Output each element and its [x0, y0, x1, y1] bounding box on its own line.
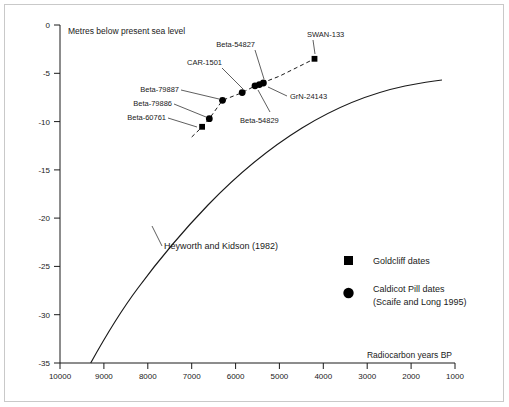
x-tick-8000: 8000	[139, 372, 157, 381]
x-tick-6000: 6000	[227, 372, 245, 381]
legend-marker-circle	[343, 288, 353, 298]
y-tick-15: -15	[38, 166, 50, 175]
x-tick-5000: 5000	[271, 372, 289, 381]
y-tick-30: -30	[38, 311, 50, 320]
x-tick-2000: 2000	[402, 372, 420, 381]
y-axis: 0 -5 -10 -15 -20 -25 -30 -35	[38, 21, 60, 368]
point-swan-133[interactable]	[312, 56, 318, 62]
legend-label-caldicot-source: (Scaife and Long 1995)	[373, 297, 467, 307]
point-beta-60761[interactable]	[199, 124, 205, 130]
leader-beta-60761	[168, 118, 197, 127]
leader-car-1501	[222, 68, 243, 89]
leader-heyworth	[152, 226, 162, 246]
y-tick-20: -20	[38, 214, 50, 223]
leader-swan-133	[313, 40, 315, 54]
label-beta-60761: Beta-60761	[127, 113, 166, 122]
legend-marker-square	[344, 256, 353, 265]
leader-beta-54827	[255, 50, 264, 79]
leader-beta-54829	[258, 90, 270, 112]
y-axis-title: Metres below present sea level	[68, 26, 185, 36]
leader-beta-79887	[181, 90, 219, 99]
y-tick-0: 0	[46, 21, 51, 30]
point-beta-79886[interactable]	[206, 115, 213, 122]
y-tick-10: -10	[38, 118, 50, 127]
y-tick-5: -5	[43, 69, 51, 78]
x-tick-3000: 3000	[358, 372, 376, 381]
label-beta-79887: Beta-79887	[140, 85, 179, 94]
annotation-heyworth-kidson: Heyworth and Kidson (1982)	[164, 241, 278, 251]
label-beta-54827: Beta-54827	[216, 40, 255, 49]
x-axis-title: Radiocarbon years BP	[367, 350, 452, 360]
x-axis: 10000 9000 8000 7000 6000 5000 4000 3000…	[49, 363, 465, 381]
point-car-1501[interactable]	[239, 89, 246, 96]
label-swan-133: SWAN-133	[307, 30, 344, 39]
point-beta-79887[interactable]	[219, 97, 226, 104]
label-car-1501: CAR-1501	[187, 58, 222, 67]
point-grn-24143[interactable]	[256, 81, 263, 88]
figure-container: 0 -5 -10 -15 -20 -25 -30 -35 10000 9000 …	[0, 0, 509, 407]
label-beta-54829: Beta-54829	[240, 116, 279, 125]
y-tick-25: -25	[38, 262, 50, 271]
x-tick-10000: 10000	[49, 372, 72, 381]
legend: Goldcliff dates Caldicot Pill dates (Sca…	[343, 256, 466, 307]
x-tick-1000: 1000	[446, 372, 464, 381]
sea-level-chart: 0 -5 -10 -15 -20 -25 -30 -35 10000 9000 …	[0, 0, 509, 407]
leader-beta-79886	[174, 104, 206, 117]
x-tick-9000: 9000	[95, 372, 113, 381]
legend-label-goldcliff: Goldcliff dates	[373, 256, 430, 266]
leader-grn-24143	[268, 87, 287, 96]
y-tick-35: -35	[38, 359, 50, 368]
legend-label-caldicot: Caldicot Pill dates	[373, 284, 445, 294]
label-grn-24143: GrN-24143	[290, 92, 327, 101]
label-beta-79886: Beta-79886	[133, 99, 172, 108]
x-tick-4000: 4000	[314, 372, 332, 381]
x-tick-7000: 7000	[183, 372, 201, 381]
